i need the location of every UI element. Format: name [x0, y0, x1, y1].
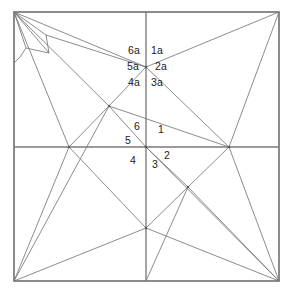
- line-lower-mid-to-br: [146, 228, 279, 281]
- label-6: 6: [134, 121, 140, 132]
- diagram-canvas: 6a 1a 5a 2a 4a 3a 6 1 5 2 4 3: [0, 0, 294, 301]
- line-upper-hub-to-tr: [146, 12, 279, 67]
- line-ul-hub-to-left-hub: [69, 106, 109, 147]
- line-tl-to-poly-b: [14, 12, 49, 53]
- poly-edge-c-d: [20, 48, 26, 57]
- line-left-hub-to-bl: [14, 147, 69, 281]
- label-5a: 5a: [127, 61, 139, 72]
- label-5: 5: [125, 135, 131, 146]
- line-lr-hub-to-bottom-mid: [146, 187, 188, 281]
- line-right-hub-to-br: [229, 147, 279, 281]
- label-4: 4: [130, 155, 136, 166]
- label-2a: 2a: [155, 61, 167, 72]
- vertex-upper-left-hub: [108, 105, 110, 107]
- label-3: 3: [152, 159, 158, 170]
- label-3a: 3a: [151, 77, 163, 88]
- vertex-upper-hub: [145, 66, 148, 69]
- vertex-lower-mid-hub: [145, 227, 147, 229]
- line-tl-to-ul-hub: [14, 12, 109, 106]
- poly-edge-d-frame: [14, 57, 20, 63]
- line-right-hub-to-lr-hub: [188, 147, 229, 187]
- vertex-lower-right-hub: [187, 186, 189, 188]
- label-1: 1: [158, 124, 164, 135]
- line-lr-hub-to-br: [188, 187, 279, 281]
- line-ul-hub-to-bl: [14, 106, 109, 281]
- line-lower-mid-to-bl: [14, 228, 146, 281]
- vertex-right-edge-hub: [228, 146, 230, 148]
- line-tl-to-upper-hub: [14, 12, 146, 67]
- vertex-left-edge-hub: [68, 146, 70, 148]
- vertex-center: [145, 146, 148, 149]
- figure-svg: [0, 0, 294, 301]
- label-1a: 1a: [151, 45, 163, 56]
- label-2: 2: [164, 150, 170, 161]
- line-right-hub-to-tr: [229, 12, 279, 147]
- line-lr-hub-to-lower-mid: [146, 187, 188, 228]
- label-4a: 4a: [128, 77, 140, 88]
- label-6a: 6a: [128, 45, 140, 56]
